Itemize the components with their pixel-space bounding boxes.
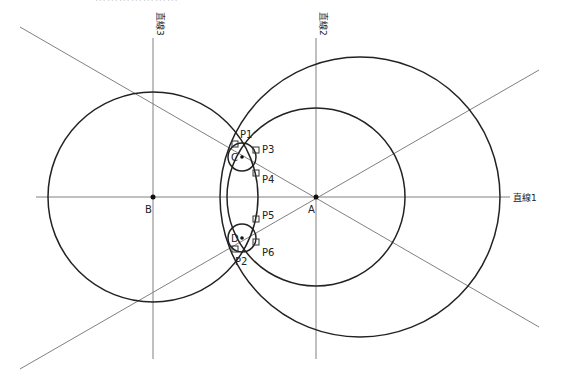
label-line-3: 直線3 [155,12,166,36]
label-p6: P6 [262,247,274,258]
label-line-1: 直線1 [513,192,537,203]
label-p4: P4 [262,174,274,185]
label-c: C [231,152,238,163]
label-b: B [145,204,152,215]
point-d-marker [240,236,244,240]
label-p2: P2 [235,256,247,267]
label-p5: P5 [262,210,274,221]
label-d: D [231,233,239,244]
point-b-marker [151,195,156,200]
label-p3: P3 [262,144,274,155]
diagonal-lower-left [20,70,539,369]
point-a-marker [314,195,319,200]
label-line-2: 直線2 [318,12,329,36]
label-p1: P1 [240,129,252,140]
label-a: A [308,204,315,215]
point-c-marker [240,155,244,159]
geometry-diagram: A B C D P1 P3 P4 P5 P6 P2 直線1 直線2 直線3 [0,0,562,390]
diagonal-upper-left [20,27,539,327]
